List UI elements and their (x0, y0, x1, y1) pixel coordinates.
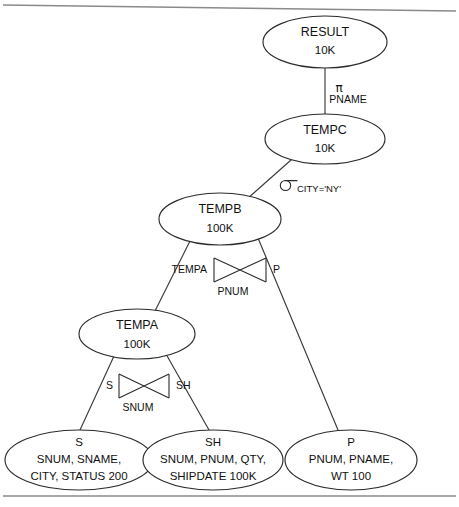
projection-attribute: PNAME (329, 93, 366, 105)
query-tree-diagram: RESULT 10K π PNAME TEMPC 10K CITY='NY' T… (0, 0, 459, 507)
node-s[interactable]: S SNUM, SNAME, CITY, STATUS 200 (5, 430, 153, 490)
join-tempb-attribute: PNUM (218, 285, 249, 297)
node-p[interactable]: P PNUM, PNAME, WT 100 (285, 430, 417, 490)
node-s-title: S (75, 436, 83, 448)
bowtie-join-icon (214, 258, 266, 282)
node-sh-title: SH (205, 436, 221, 448)
operator-join-tempa: S SH SNUM (106, 374, 191, 413)
page-rules (3, 5, 456, 496)
node-tempa-line-1: 100K (124, 338, 151, 350)
edge-tempc-tempb (247, 160, 291, 199)
sigma-icon (280, 181, 297, 191)
node-tempb[interactable]: TEMPB 100K (159, 193, 281, 245)
join-tempa-attribute: SNUM (123, 401, 154, 413)
top-rule (3, 5, 456, 11)
node-tempb-line-1: 100K (207, 222, 234, 234)
node-tempa-shape (79, 309, 195, 359)
node-s-line-2: CITY, STATUS 200 (30, 470, 127, 482)
edge-tempb-p (258, 238, 338, 430)
bowtie-join-icon (119, 374, 169, 398)
operator-projection: π PNAME (329, 81, 366, 105)
operator-selection: CITY='NY' (280, 181, 341, 194)
node-tempc-line-1: 10K (315, 142, 336, 154)
node-tempc-title: TEMPC (303, 123, 347, 137)
node-sh-line-2: SHIPDATE 100K (170, 470, 257, 482)
selection-condition: CITY='NY' (297, 183, 341, 194)
node-result-title: RESULT (301, 25, 350, 39)
node-s-line-1: SNUM, SNAME, (37, 453, 121, 465)
diagram-page: RESULT 10K π PNAME TEMPC 10K CITY='NY' T… (0, 0, 459, 507)
operator-join-tempb: TEMPA P PNUM (172, 258, 280, 297)
edge-tempa-s (80, 356, 114, 430)
node-result-line-1: 10K (315, 44, 336, 56)
node-sh[interactable]: SH SNUM, PNUM, QTY, SHIPDATE 100K (143, 430, 283, 490)
node-tempb-shape (159, 193, 281, 245)
node-tempa[interactable]: TEMPA 100K (79, 309, 195, 359)
node-tempc[interactable]: TEMPC 10K (265, 114, 385, 164)
edge-tempb-tempa (155, 241, 190, 311)
node-tempa-title: TEMPA (116, 318, 159, 332)
node-tempc-shape (265, 114, 385, 164)
node-result-shape (263, 16, 387, 68)
join-tempa-left-label: S (106, 379, 113, 391)
edge-tempa-sh (166, 354, 209, 430)
node-sh-line-1: SNUM, PNUM, QTY, (160, 453, 266, 465)
join-tempa-right-label: SH (176, 379, 191, 391)
node-result[interactable]: RESULT 10K (263, 16, 387, 68)
node-p-line-1: PNUM, PNAME, (309, 453, 393, 465)
node-tempb-title: TEMPB (198, 202, 241, 216)
join-tempb-right-label: P (273, 263, 280, 275)
node-p-title: P (347, 436, 355, 448)
join-tempb-left-label: TEMPA (172, 263, 207, 275)
node-p-line-2: WT 100 (331, 470, 371, 482)
